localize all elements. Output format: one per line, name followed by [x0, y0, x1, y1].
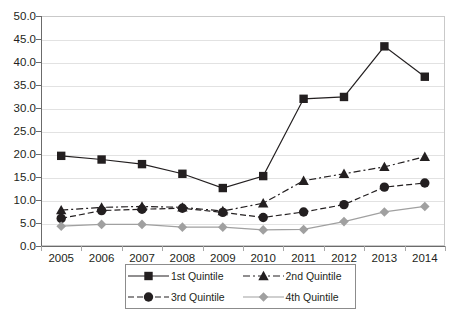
legend-entry-2nd-quintile[interactable]: 2nd Quintile — [241, 269, 356, 283]
series-line — [61, 157, 425, 211]
data-point-circle-marker — [218, 208, 227, 217]
data-point-circle-marker — [144, 292, 153, 301]
data-point-diamond-marker — [178, 222, 188, 232]
data-point-circle-marker — [299, 207, 308, 216]
data-point-square-marker — [421, 73, 429, 81]
data-point-square-marker — [57, 152, 65, 160]
data-point-diamond-marker — [137, 220, 147, 230]
legend-entry-3rd-quintile[interactable]: 3rd Quintile — [126, 290, 241, 304]
line-chart: 0.05.010.015.020.025.030.035.040.045.050… — [0, 0, 452, 319]
data-point-square-marker — [178, 170, 186, 178]
legend-label: 2nd Quintile — [286, 270, 342, 282]
series-3rd-quintile — [57, 178, 430, 223]
data-point-square-marker — [299, 95, 307, 103]
data-point-diamond-marker — [218, 222, 228, 232]
data-point-diamond-marker — [97, 220, 107, 230]
legend-swatch-diamond-icon — [241, 290, 286, 304]
data-point-square-marker — [340, 93, 348, 101]
data-point-triangle-marker — [339, 169, 349, 178]
data-point-diamond-marker — [56, 221, 66, 231]
legend-entry-4th-quintile[interactable]: 4th Quintile — [241, 290, 356, 304]
data-point-diamond-marker — [258, 292, 268, 302]
legend-swatch-triangle-icon — [241, 269, 286, 283]
data-point-triangle-marker — [298, 175, 308, 184]
legend-label: 3rd Quintile — [171, 291, 225, 303]
series-line — [61, 46, 425, 188]
legend-row: 3rd Quintile 4th Quintile — [126, 286, 355, 307]
data-point-circle-marker — [137, 205, 146, 214]
data-point-diamond-marker — [420, 202, 430, 212]
data-point-circle-marker — [259, 213, 268, 222]
data-point-diamond-marker — [299, 225, 309, 235]
data-point-triangle-marker — [420, 152, 430, 161]
legend-row: 1st Quintile 2nd Quintile — [126, 265, 355, 286]
legend-swatch-circle-icon — [126, 290, 171, 304]
legend-label: 4th Quintile — [286, 291, 339, 303]
data-point-diamond-marker — [380, 207, 390, 217]
data-point-circle-marker — [380, 182, 389, 191]
legend-label: 1st Quintile — [171, 270, 224, 282]
series-line — [61, 183, 425, 218]
data-point-square-marker — [219, 184, 227, 192]
data-point-square-marker — [138, 160, 146, 168]
data-point-square-marker — [144, 271, 152, 279]
data-point-square-marker — [259, 172, 267, 180]
data-point-circle-marker — [420, 178, 429, 187]
legend-entry-1st-quintile[interactable]: 1st Quintile — [126, 269, 241, 283]
data-point-circle-marker — [339, 200, 348, 209]
data-point-circle-marker — [97, 206, 106, 215]
chart-legend: 1st Quintile 2nd Quintile 3rd Quintile 4… — [125, 264, 356, 309]
data-point-diamond-marker — [339, 217, 349, 227]
legend-swatch-square-icon — [126, 269, 171, 283]
data-point-circle-marker — [178, 204, 187, 213]
data-point-diamond-marker — [258, 225, 268, 235]
series-1st-quintile — [57, 42, 429, 192]
data-point-square-marker — [380, 42, 388, 50]
data-point-square-marker — [97, 155, 105, 163]
data-point-triangle-marker — [258, 198, 268, 207]
